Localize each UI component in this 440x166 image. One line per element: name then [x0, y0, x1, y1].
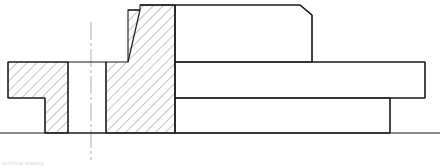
cross-section-svg: [0, 0, 440, 166]
technical-drawing-canvas: technical drawing: [0, 0, 440, 166]
drawing-caption: technical drawing: [2, 160, 44, 166]
